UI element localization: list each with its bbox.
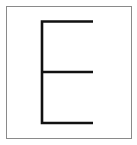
letter-e-glyph (0, 0, 137, 145)
